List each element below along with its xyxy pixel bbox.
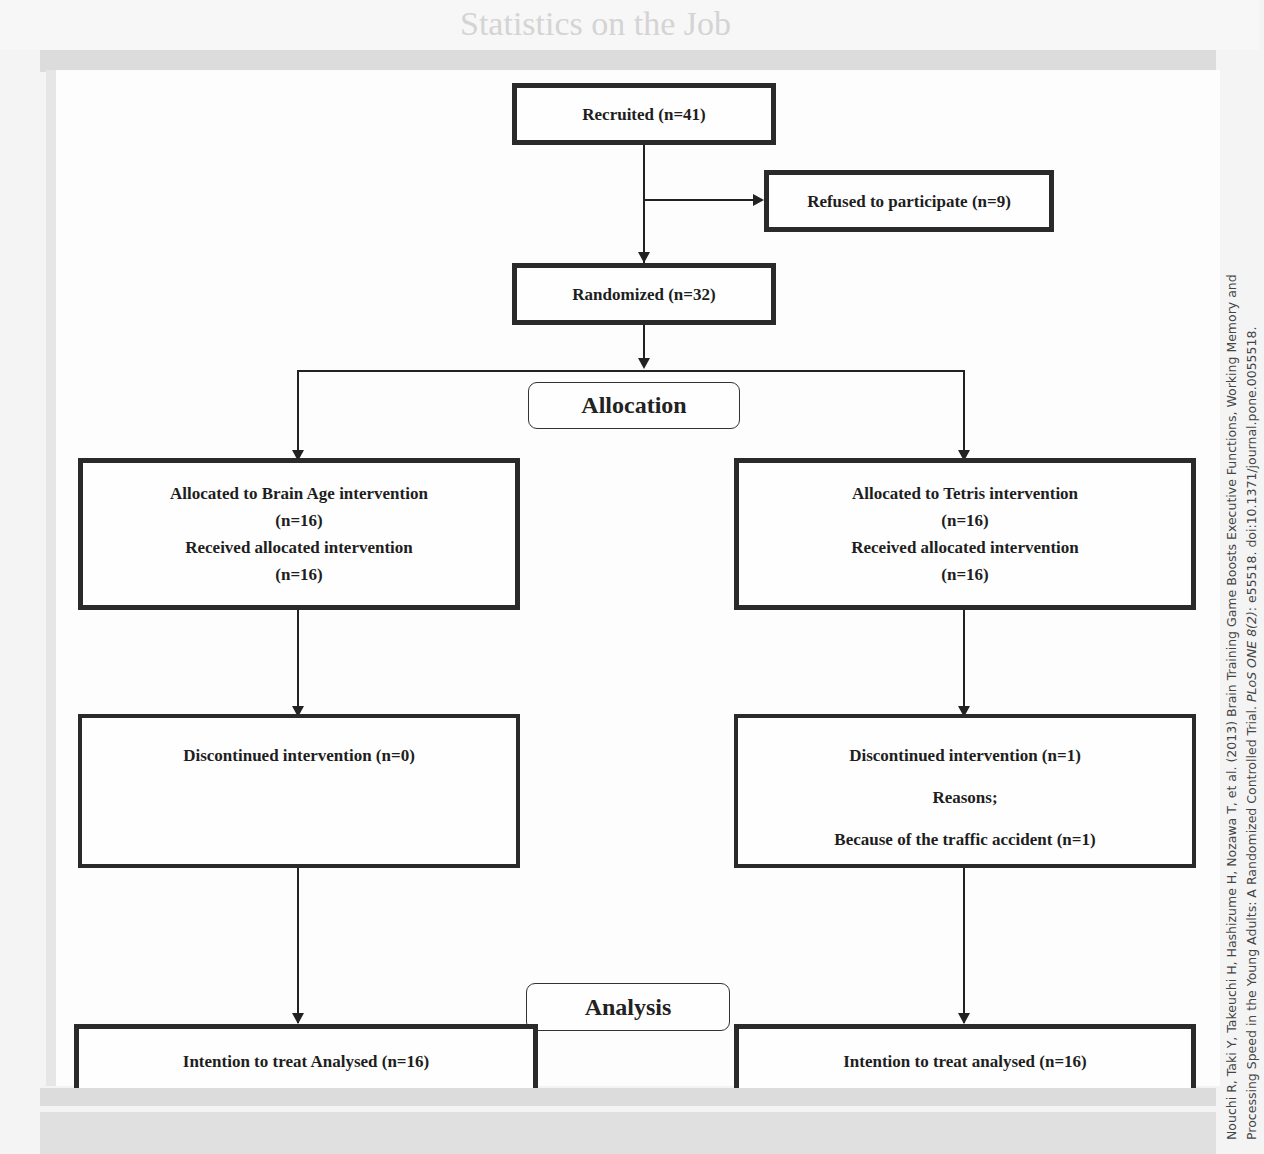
arrow-down-icon (638, 358, 650, 369)
brain-age-allocated-label: Allocated to Brain Age intervention (170, 480, 428, 507)
consort-flow-diagram: Recruited (n=41) Refused to participate … (46, 70, 1220, 1086)
brain-age-discontinued-box: Discontinued intervention (n=0) (78, 714, 520, 868)
figure-citation: Nouchi R, Taki Y, Takeuchi H, Hashizume … (1222, 20, 1262, 1140)
tetris-discontinued-box: Discontinued intervention (n=1) Reasons;… (734, 714, 1196, 868)
tetris-discontinued-label: Discontinued intervention (n=1) (849, 742, 1081, 770)
brain-age-received-n: (n=16) (275, 561, 322, 588)
connector-right-discontinued (963, 610, 965, 714)
allocation-stage-label: Allocation (528, 382, 740, 429)
arrow-down-icon (292, 1013, 304, 1024)
tetris-allocated-label: Allocated to Tetris intervention (852, 480, 1078, 507)
tetris-allocation-box: Allocated to Tetris intervention (n=16) … (734, 458, 1196, 610)
arrow-down-icon (638, 252, 650, 263)
tetris-received-n: (n=16) (941, 561, 988, 588)
randomized-box: Randomized (n=32) (512, 263, 776, 325)
tetris-reason-detail: Because of the traffic accident (n=1) (834, 826, 1095, 854)
recruited-box: Recruited (n=41) (512, 83, 776, 145)
allocation-stage-text: Allocation (581, 392, 686, 419)
tetris-allocated-n: (n=16) (941, 507, 988, 534)
connector-recruited-randomized (643, 145, 645, 263)
tetris-analysed-box: Intention to treat analysed (n=16) (734, 1024, 1196, 1098)
brain-age-analysed-label: Intention to treat Analysed (n=16) (183, 1048, 429, 1075)
connector-left-discontinued (297, 610, 299, 714)
randomized-label: Randomized (n=32) (572, 281, 715, 308)
background-heading-ghost: Statistics on the Job (460, 4, 1264, 44)
brain-age-discontinued-label: Discontinued intervention (n=0) (183, 742, 415, 769)
figure-top-band (40, 50, 1216, 72)
arrow-down-icon (958, 1013, 970, 1024)
brain-age-received-label: Received allocated intervention (185, 534, 413, 561)
connector-left-arm (297, 370, 299, 458)
analysis-stage-label: Analysis (526, 983, 730, 1031)
tetris-received-label: Received allocated intervention (851, 534, 1079, 561)
page-background-top: Statistics on the Job (0, 0, 1259, 50)
citation-line-2: Processing Speed in the Young Adults: A … (1242, 20, 1262, 1140)
citation-line-1: Nouchi R, Taki Y, Takeuchi H, Hashizume … (1222, 20, 1242, 1140)
analysis-stage-text: Analysis (585, 994, 672, 1021)
refused-label: Refused to participate (n=9) (807, 188, 1011, 215)
citation-title-end: Processing Speed in the Young Adults: A … (1244, 702, 1259, 1140)
arrow-right-icon (753, 194, 764, 206)
connector-right-analysed (963, 868, 965, 1023)
connector-to-refused (644, 199, 756, 201)
brain-age-allocated-n: (n=16) (275, 507, 322, 534)
allocation-split-line (297, 370, 964, 372)
brain-age-analysed-box: Intention to treat Analysed (n=16) (74, 1024, 538, 1098)
tetris-analysed-label: Intention to treat analysed (n=16) (843, 1048, 1087, 1075)
connector-left-analysed (297, 868, 299, 1023)
brain-age-allocation-box: Allocated to Brain Age intervention (n=1… (78, 458, 520, 610)
connector-right-arm (963, 370, 965, 458)
page-bottom-band (40, 1112, 1216, 1154)
citation-journal: PLoS ONE 8(2) (1244, 611, 1259, 702)
figure-bottom-band (40, 1088, 1216, 1106)
refused-box: Refused to participate (n=9) (764, 170, 1054, 232)
citation-doi: : e55518. doi:10.1371/journal.pone.00555… (1244, 327, 1259, 612)
recruited-label: Recruited (n=41) (582, 101, 705, 128)
tetris-reasons-label: Reasons; (932, 784, 997, 812)
